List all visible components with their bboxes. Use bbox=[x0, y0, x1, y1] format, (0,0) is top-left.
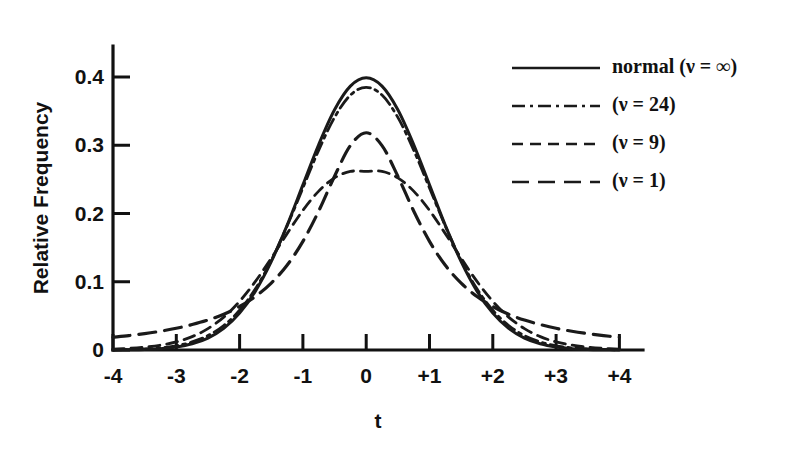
x-tick-label: -1 bbox=[294, 364, 313, 387]
x-tick-label: +1 bbox=[418, 364, 442, 387]
y-axis-title: Relative Frequency bbox=[29, 101, 52, 294]
t-distribution-plot: 00.10.20.30.4 -4-3-2-10+1+2+3+4 Relative… bbox=[0, 0, 803, 466]
legend-label: (ν = 24) bbox=[612, 93, 676, 116]
curve-nu-9 bbox=[113, 171, 619, 349]
y-tick-labels: 00.10.20.30.4 bbox=[75, 65, 105, 361]
chart-figure: 00.10.20.30.4 -4-3-2-10+1+2+3+4 Relative… bbox=[0, 0, 803, 466]
y-tick-label: 0.2 bbox=[75, 202, 104, 225]
curve-nu-24 bbox=[113, 87, 619, 349]
y-tick-label: 0.4 bbox=[75, 65, 105, 88]
chart-legend: normal (ν = ∞)(ν = 24)(ν = 9)(ν = 1) bbox=[512, 55, 737, 192]
x-tick-label: +2 bbox=[481, 364, 505, 387]
legend-label: (ν = 1) bbox=[612, 169, 666, 192]
y-tick-label: 0.3 bbox=[75, 133, 104, 156]
curves-group bbox=[113, 78, 619, 350]
x-tick-label: 0 bbox=[360, 364, 372, 387]
legend-label: (ν = 9) bbox=[612, 131, 666, 154]
x-tick-label: -4 bbox=[104, 364, 123, 387]
y-tick-label: 0 bbox=[92, 338, 104, 361]
y-tick-marks bbox=[113, 77, 130, 350]
curve-nu-inf bbox=[113, 78, 619, 350]
curve-nu-1 bbox=[113, 133, 619, 337]
x-axis-title: t bbox=[375, 409, 382, 432]
x-tick-label: -3 bbox=[167, 364, 186, 387]
x-tick-label: +3 bbox=[544, 364, 568, 387]
legend-label: normal (ν = ∞) bbox=[612, 55, 737, 78]
x-tick-labels: -4-3-2-10+1+2+3+4 bbox=[104, 364, 632, 387]
x-tick-label: +4 bbox=[607, 364, 631, 387]
x-tick-label: -2 bbox=[230, 364, 249, 387]
y-tick-label: 0.1 bbox=[75, 270, 105, 293]
